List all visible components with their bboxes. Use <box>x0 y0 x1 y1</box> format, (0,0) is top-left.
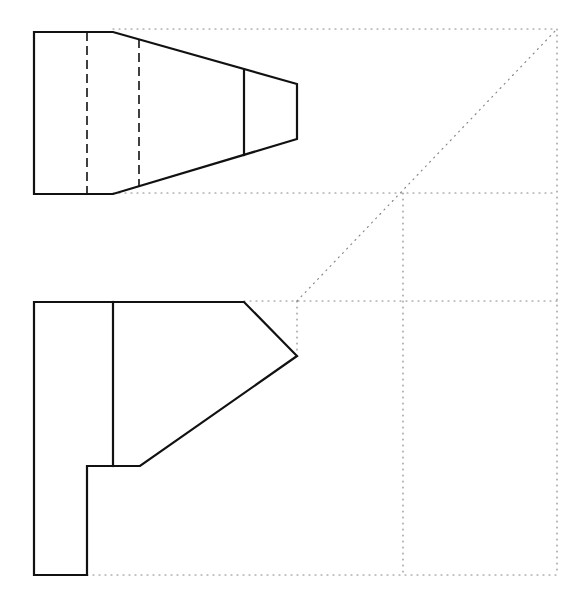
top-view-outline <box>34 32 297 194</box>
miter-line <box>297 29 557 301</box>
front-view <box>34 302 297 575</box>
orthographic-drawing <box>0 0 586 604</box>
front-view-outline <box>34 302 297 575</box>
top-view <box>34 32 297 194</box>
